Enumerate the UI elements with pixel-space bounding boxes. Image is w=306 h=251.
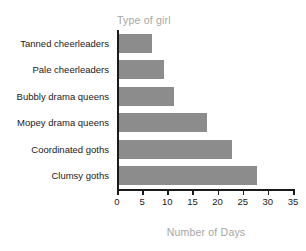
axis-tick-label: 30 <box>263 196 274 207</box>
bar-row <box>119 30 293 57</box>
plot-area <box>117 30 293 189</box>
axis-tick <box>192 189 194 195</box>
bar <box>119 140 232 159</box>
bar-row <box>119 163 293 190</box>
axis-tick-label: 5 <box>139 196 144 207</box>
category-label: Coordinated goths <box>0 136 114 163</box>
category-label: Pale cheerleaders <box>0 57 114 84</box>
axis-tick <box>167 189 169 195</box>
bar <box>119 166 257 185</box>
bar <box>119 34 152 53</box>
bar-chart: Type of girl Tanned cheerleadersPale che… <box>0 0 306 251</box>
axis-tick <box>142 189 144 195</box>
axis-tick-label: 10 <box>162 196 173 207</box>
axis-tick <box>218 189 220 195</box>
value-axis-title: Number of Days <box>117 226 295 238</box>
bar <box>119 87 174 106</box>
category-label: Clumsy goths <box>0 163 114 190</box>
axis-tick-label: 35 <box>288 196 299 207</box>
bar-row <box>119 136 293 163</box>
bar <box>119 113 207 132</box>
category-axis-labels: Tanned cheerleadersPale cheerleadersBubb… <box>0 30 114 189</box>
bar-series <box>119 30 293 189</box>
axis-tick-label: 25 <box>237 196 248 207</box>
category-label: Mopey drama queens <box>0 110 114 137</box>
axis-tick <box>268 189 270 195</box>
bar-row <box>119 83 293 110</box>
bar <box>119 60 164 79</box>
bar-row <box>119 57 293 84</box>
category-label: Bubbly drama queens <box>0 83 114 110</box>
bar-row <box>119 110 293 137</box>
value-axis-line: 05101520253035 <box>117 189 295 191</box>
axis-tick <box>117 189 119 195</box>
axis-tick-label: 20 <box>212 196 223 207</box>
axis-tick-label: 15 <box>187 196 198 207</box>
category-axis-title: Type of girl <box>117 14 237 26</box>
axis-tick <box>243 189 245 195</box>
axis-tick <box>293 189 295 195</box>
axis-tick-label: 0 <box>114 196 119 207</box>
category-label: Tanned cheerleaders <box>0 30 114 57</box>
